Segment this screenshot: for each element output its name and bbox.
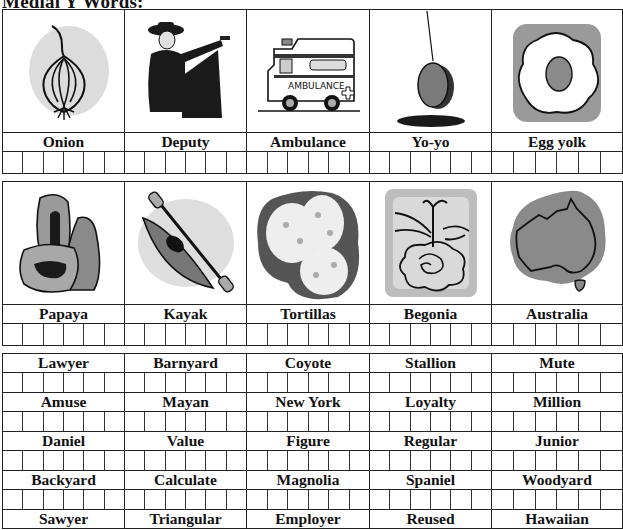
word-label-row: AmuseMayanNew YorkLoyaltyMillion xyxy=(3,393,623,412)
picture-cell-yoyo xyxy=(370,10,492,133)
ambulance-icon: AMBULANCE xyxy=(252,21,364,121)
word-label-row: SawyerTriangularEmployerReusedHawaiian xyxy=(3,510,623,529)
letter-boxes[interactable] xyxy=(247,373,370,393)
word-label: Reused xyxy=(370,510,492,529)
word-label: Triangular xyxy=(125,510,247,529)
letter-boxes[interactable] xyxy=(3,373,125,393)
word-label: Mayan xyxy=(125,393,247,412)
word-label: Employer xyxy=(247,510,370,529)
picture-cell-tortillas xyxy=(247,182,370,305)
picture-label: Deputy xyxy=(125,133,247,152)
letter-boxes[interactable] xyxy=(370,152,492,174)
letter-boxes[interactable] xyxy=(492,490,623,510)
letter-boxes[interactable] xyxy=(125,451,247,471)
deputy-icon xyxy=(136,16,236,126)
word-label: Magnolia xyxy=(247,471,370,490)
letter-box-row xyxy=(3,412,623,432)
word-label: Lawyer xyxy=(3,354,125,373)
yoyo-icon xyxy=(381,11,481,131)
letter-boxes[interactable] xyxy=(492,152,623,174)
picture-row xyxy=(3,182,623,305)
letter-boxes[interactable] xyxy=(370,324,492,346)
picture-row: AMBULANCE xyxy=(3,10,623,133)
letter-boxes[interactable] xyxy=(247,412,370,432)
picture-cell-papaya xyxy=(3,182,125,305)
label-row: Onion Deputy Ambulance Yo-yo Egg yolk xyxy=(3,133,623,152)
letter-boxes[interactable] xyxy=(492,324,623,346)
picture-label: Kayak xyxy=(125,305,247,324)
word-label-row: BackyardCalculateMagnoliaSpanielWoodyard xyxy=(3,471,623,490)
australia-icon xyxy=(505,187,609,299)
letter-boxes[interactable] xyxy=(125,152,247,174)
letter-boxes[interactable] xyxy=(492,451,623,471)
word-label: Sawyer xyxy=(3,510,125,529)
letter-boxes[interactable] xyxy=(125,490,247,510)
word-label: Backyard xyxy=(3,471,125,490)
picture-cell-deputy xyxy=(125,10,247,133)
letter-boxes[interactable] xyxy=(492,412,623,432)
picture-label: Ambulance xyxy=(247,133,370,152)
picture-table-1: AMBULANCE Onion Deputy xyxy=(2,9,623,174)
letter-box-row xyxy=(3,490,623,510)
word-label: Loyalty xyxy=(370,393,492,412)
letter-box-row xyxy=(3,373,623,393)
letter-box-row xyxy=(3,451,623,471)
picture-cell-begonia xyxy=(370,182,492,305)
word-label: Regular xyxy=(370,432,492,451)
picture-label: Onion xyxy=(3,133,125,152)
picture-cell-kayak xyxy=(125,182,247,305)
picture-cell-ambulance: AMBULANCE xyxy=(247,10,370,133)
letter-boxes[interactable] xyxy=(370,412,492,432)
letter-boxes[interactable] xyxy=(247,451,370,471)
letter-boxes[interactable] xyxy=(125,373,247,393)
picture-label: Egg yolk xyxy=(492,133,623,152)
egg-yolk-icon xyxy=(507,16,607,126)
word-label-row: DanielValueFigureRegularJunior xyxy=(3,432,623,451)
picture-cell-onion xyxy=(3,10,125,133)
word-label: Woodyard xyxy=(492,471,623,490)
word-label: Stallion xyxy=(370,354,492,373)
letter-boxes[interactable] xyxy=(247,324,370,346)
word-label: Amuse xyxy=(3,393,125,412)
word-label-row: LawyerBarnyardCoyoteStallionMute xyxy=(3,354,623,373)
kayak-icon xyxy=(131,188,241,298)
word-label: Calculate xyxy=(125,471,247,490)
letter-boxes[interactable] xyxy=(3,324,125,346)
papaya-icon xyxy=(14,188,114,298)
word-label: Hawaiian xyxy=(492,510,623,529)
letter-boxes[interactable] xyxy=(492,373,623,393)
picture-label: Papaya xyxy=(3,305,125,324)
letter-boxes[interactable] xyxy=(370,490,492,510)
word-label: Barnyard xyxy=(125,354,247,373)
word-label: Million xyxy=(492,393,623,412)
word-label: Mute xyxy=(492,354,623,373)
letter-boxes[interactable] xyxy=(125,324,247,346)
letter-box-row xyxy=(3,324,623,346)
picture-table-2: Papaya Kayak Tortillas Begonia Australia xyxy=(2,181,623,346)
letter-boxes[interactable] xyxy=(247,152,370,174)
letter-boxes[interactable] xyxy=(3,451,125,471)
picture-label: Australia xyxy=(492,305,623,324)
picture-cell-egg-yolk xyxy=(492,10,623,133)
picture-label: Yo-yo xyxy=(370,133,492,152)
word-label: Junior xyxy=(492,432,623,451)
word-label: Coyote xyxy=(247,354,370,373)
word-label: Spaniel xyxy=(370,471,492,490)
word-label: Value xyxy=(125,432,247,451)
letter-boxes[interactable] xyxy=(3,490,125,510)
letter-boxes[interactable] xyxy=(3,412,125,432)
word-label: Daniel xyxy=(3,432,125,451)
letter-box-row xyxy=(3,152,623,174)
letter-boxes[interactable] xyxy=(370,373,492,393)
label-row: Papaya Kayak Tortillas Begonia Australia xyxy=(3,305,623,324)
letter-boxes[interactable] xyxy=(3,152,125,174)
letter-boxes[interactable] xyxy=(370,451,492,471)
word-label: New York xyxy=(247,393,370,412)
letter-boxes[interactable] xyxy=(247,490,370,510)
picture-label: Begonia xyxy=(370,305,492,324)
tortillas-icon xyxy=(252,185,364,301)
word-label: Figure xyxy=(247,432,370,451)
picture-cell-australia xyxy=(492,182,623,305)
begonia-icon xyxy=(383,187,479,299)
letter-boxes[interactable] xyxy=(125,412,247,432)
